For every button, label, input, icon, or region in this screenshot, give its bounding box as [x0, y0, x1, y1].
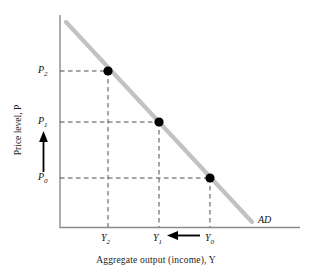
x-tick-label-y2: Y2 [101, 232, 110, 246]
ad-curve-figure: Price level, P Aggregate output (income)… [0, 0, 312, 276]
y-tick-label-p1: P1 [38, 115, 48, 129]
y-tick-label-p0: P0 [38, 171, 48, 185]
price-level-up-arrow-icon [39, 131, 48, 172]
data-point-p1-y1 [154, 117, 163, 126]
ad-curve-label: AD [258, 214, 271, 225]
y-tick-label-p2: P2 [38, 64, 48, 78]
y-axis-title: Price level, P [13, 105, 23, 155]
x-tick-label-y0: Y0 [205, 232, 214, 246]
x-tick-label-y1: Y1 [153, 232, 162, 246]
y-axis-title-wrap: Price level, P [4, 70, 32, 190]
x-axis-title: Aggregate output (income), Y [0, 255, 312, 265]
output-left-arrow-icon [167, 231, 200, 240]
data-point-p2-y2 [103, 66, 112, 75]
data-point-p0-y0 [205, 173, 214, 182]
